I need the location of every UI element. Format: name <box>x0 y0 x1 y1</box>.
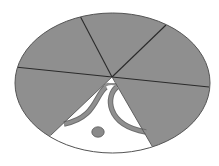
center-dot <box>92 127 104 137</box>
diagram-canvas <box>0 0 219 166</box>
sectored-ellipse-diagram <box>0 0 219 166</box>
